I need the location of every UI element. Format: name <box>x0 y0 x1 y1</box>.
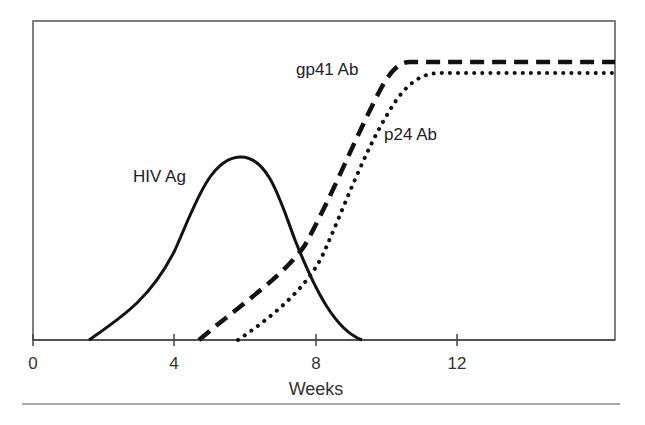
label-hiv-ag: HIV Ag <box>133 167 186 186</box>
series-p24-ab <box>238 73 615 340</box>
tick-label-0: 0 <box>28 354 37 373</box>
chart: 0 4 8 12 Weeks HIV Ag gp41 Ab p24 Ab <box>0 0 645 425</box>
tick-label-12: 12 <box>448 354 467 373</box>
x-axis-label: Weeks <box>289 379 344 399</box>
x-tick-labels: 0 4 8 12 <box>28 354 466 373</box>
label-gp41-ab: gp41 Ab <box>296 60 358 79</box>
tick-label-8: 8 <box>311 354 320 373</box>
series-hiv-ag <box>89 157 362 340</box>
series-gp41-ab <box>199 62 615 340</box>
tick-label-4: 4 <box>169 354 178 373</box>
label-p24-ab: p24 Ab <box>384 125 437 144</box>
